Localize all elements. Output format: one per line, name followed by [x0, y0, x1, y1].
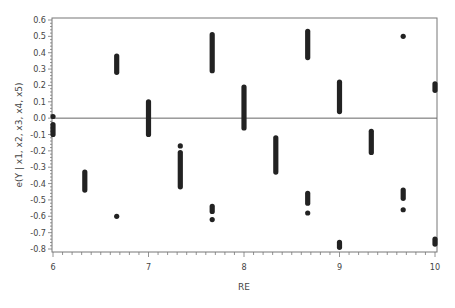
plot-frame [52, 18, 437, 252]
x-tick-label: 7 [146, 262, 151, 272]
data-point [305, 210, 310, 215]
x-tick-label: 8 [241, 262, 246, 272]
data-point-cluster [305, 29, 310, 60]
y-tick-label: 0.3 [33, 64, 46, 74]
data-point-cluster [210, 32, 215, 73]
data-point-cluster [241, 84, 246, 130]
x-axis: 678910 [50, 252, 440, 272]
y-axis-title: e(Y | x1, x2, x3, x4, x5) [14, 83, 24, 188]
y-tick-label: -0.8 [30, 244, 46, 254]
data-point [114, 214, 119, 219]
y-tick-label: -0.1 [30, 130, 46, 140]
x-axis-title: RE [238, 282, 250, 292]
y-tick-label: -0.6 [30, 211, 46, 221]
x-tick-label: 6 [50, 262, 55, 272]
data-point [50, 114, 55, 119]
data-point-cluster [337, 240, 342, 250]
data-point-cluster [369, 129, 374, 155]
y-tick-label: -0.4 [30, 179, 46, 189]
scatter-chart: 0.60.50.40.30.20.10.0-0.1-0.2-0.3-0.4-0.… [0, 0, 455, 308]
y-tick-label: 0.0 [33, 113, 46, 123]
data-point-cluster [178, 150, 183, 190]
y-tick-label: 0.1 [33, 97, 46, 107]
data-point-cluster [146, 99, 151, 137]
y-tick-label: 0.5 [33, 31, 46, 41]
data-point-cluster [273, 135, 278, 175]
data-point-cluster [114, 53, 119, 75]
data-point-cluster [432, 237, 437, 247]
data-point-cluster [82, 170, 87, 193]
data-point [401, 34, 406, 39]
data-point-cluster [337, 80, 342, 115]
y-tick-label: 0.2 [33, 80, 46, 90]
data-point-cluster [401, 188, 406, 201]
data-point-cluster [432, 81, 437, 93]
y-tick-label: 0.4 [33, 48, 46, 58]
y-tick-label: -0.3 [30, 162, 46, 172]
data-point [210, 217, 215, 222]
x-tick-label: 9 [337, 262, 342, 272]
data-point-cluster [305, 191, 310, 206]
data-point [178, 143, 183, 148]
plot-border [52, 18, 437, 252]
y-tick-label: -0.2 [30, 146, 46, 156]
y-tick-label: 0.6 [33, 15, 46, 25]
y-tick-label: -0.5 [30, 195, 46, 205]
data-point-cluster [210, 204, 215, 214]
y-axis: 0.60.50.40.30.20.10.0-0.1-0.2-0.3-0.4-0.… [30, 15, 52, 254]
data-point [401, 207, 406, 212]
data-point-cluster [50, 122, 55, 137]
x-tick-label: 10 [430, 262, 440, 272]
y-tick-label: -0.7 [30, 228, 46, 238]
data-points [50, 29, 437, 250]
